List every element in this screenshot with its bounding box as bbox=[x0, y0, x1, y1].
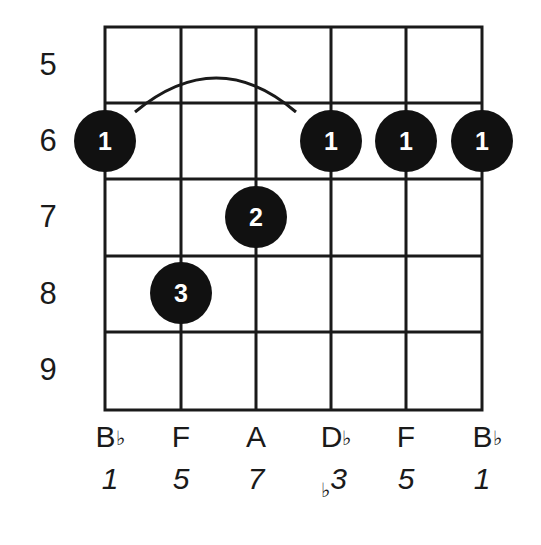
finger-number: 1 bbox=[399, 127, 413, 155]
finger-number: 1 bbox=[475, 127, 489, 155]
barre-arc bbox=[135, 78, 296, 112]
string-interval: 5 bbox=[376, 462, 436, 502]
string-note: B♭ bbox=[80, 420, 140, 454]
finger-dot: 3 bbox=[150, 262, 212, 324]
finger-dot: 2 bbox=[225, 186, 287, 248]
string-interval: 1 bbox=[80, 462, 140, 502]
string-interval: 1 bbox=[452, 462, 512, 502]
fretboard-grid bbox=[105, 27, 482, 410]
fret-number: 6 bbox=[28, 123, 68, 159]
fret-number: 8 bbox=[28, 276, 68, 312]
string-interval: ♭3 bbox=[304, 462, 364, 502]
string-note: F bbox=[151, 420, 211, 454]
string-note: D♭ bbox=[306, 420, 366, 454]
string-interval: 5 bbox=[151, 462, 211, 502]
finger-number: 3 bbox=[174, 279, 188, 307]
finger-number: 1 bbox=[324, 127, 338, 155]
finger-dot: 1 bbox=[300, 110, 362, 172]
string-note: B♭ bbox=[457, 420, 517, 454]
string-note: F bbox=[376, 420, 436, 454]
string-interval: 7 bbox=[226, 462, 286, 502]
finger-number: 2 bbox=[249, 203, 263, 231]
fret-number: 7 bbox=[28, 199, 68, 235]
string-note: A bbox=[226, 420, 286, 454]
finger-number: 1 bbox=[98, 127, 112, 155]
finger-dot: 1 bbox=[451, 110, 513, 172]
fret-number: 9 bbox=[28, 352, 68, 388]
finger-dot: 1 bbox=[74, 110, 136, 172]
fret-number: 5 bbox=[28, 47, 68, 83]
finger-dot: 1 bbox=[375, 110, 437, 172]
